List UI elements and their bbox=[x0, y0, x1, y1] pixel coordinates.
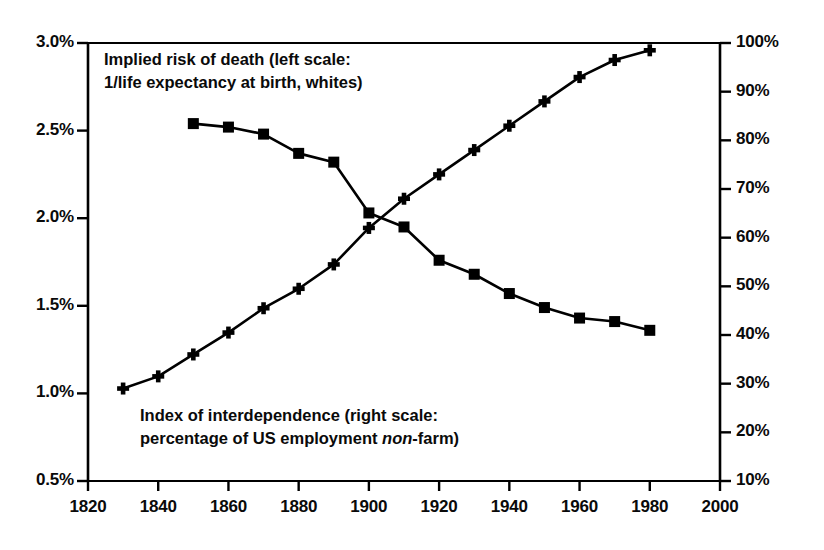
series-line bbox=[193, 124, 649, 331]
right-axis-ticks bbox=[720, 43, 731, 481]
data-point-marker-plus bbox=[644, 44, 656, 56]
right-axis-tick-label: 80% bbox=[736, 129, 816, 149]
x-axis-tick-label: 1880 bbox=[259, 497, 339, 517]
x-axis-ticks bbox=[88, 481, 720, 491]
data-point-marker-square bbox=[188, 118, 199, 129]
data-point-marker-square bbox=[328, 157, 339, 168]
data-point-marker-square bbox=[609, 316, 620, 327]
data-point-marker-plus bbox=[609, 54, 621, 66]
series-label-interdependence: Index of interdependence (right scale: p… bbox=[140, 404, 459, 450]
x-axis-tick-label: 1820 bbox=[48, 497, 128, 517]
right-axis-tick-label: 40% bbox=[736, 324, 816, 344]
data-point-marker-square bbox=[293, 148, 304, 159]
left-axis-tick-label: 3.0% bbox=[4, 32, 74, 52]
data-point-marker-plus bbox=[152, 370, 164, 382]
data-point-marker-plus bbox=[187, 348, 199, 360]
right-axis-tick-label: 70% bbox=[736, 178, 816, 198]
series-label-index-line1: Index of interdependence (right scale: bbox=[140, 404, 459, 427]
left-axis-tick-label: 0.5% bbox=[4, 470, 74, 490]
index-line2-pre: percentage of US employment bbox=[140, 429, 382, 447]
chart-figure: 0.5%1.0%1.5%2.0%2.5%3.0% 10%20%30%40%50%… bbox=[0, 0, 824, 550]
data-point-marker-square bbox=[363, 207, 374, 218]
x-axis-tick-label: 1960 bbox=[540, 497, 620, 517]
right-axis-tick-label: 100% bbox=[736, 32, 816, 52]
data-point-marker-square bbox=[223, 122, 234, 133]
data-point-marker-square bbox=[644, 325, 655, 336]
data-point-marker-square bbox=[504, 288, 515, 299]
right-axis-tick-label: 90% bbox=[736, 81, 816, 101]
data-point-marker-square bbox=[399, 221, 410, 232]
right-axis-tick-label: 10% bbox=[736, 470, 816, 490]
left-axis-ticks bbox=[77, 43, 88, 481]
left-axis-tick-label: 1.5% bbox=[4, 295, 74, 315]
x-axis-tick-label: 1860 bbox=[188, 497, 268, 517]
data-point-marker-square bbox=[539, 302, 550, 313]
data-point-marker-square bbox=[574, 313, 585, 324]
data-point-marker-square bbox=[258, 129, 269, 140]
x-axis-tick-label: 1920 bbox=[399, 497, 479, 517]
right-axis-tick-label: 60% bbox=[736, 227, 816, 247]
right-axis-tick-label: 20% bbox=[736, 421, 816, 441]
x-axis-tick-label: 1840 bbox=[118, 497, 198, 517]
series-label-risk-line2: 1/life expectancy at birth, whites) bbox=[104, 71, 363, 94]
x-axis-tick-label: 2000 bbox=[680, 497, 760, 517]
left-axis-tick-label: 1.0% bbox=[4, 382, 74, 402]
series-label-risk-line1: Implied risk of death (left scale: bbox=[104, 48, 363, 71]
data-point-marker-plus bbox=[117, 383, 129, 395]
x-axis-tick-label: 1900 bbox=[329, 497, 409, 517]
index-line2-italic: non bbox=[382, 429, 412, 447]
data-series-layer bbox=[117, 44, 656, 394]
right-axis-tick-label: 30% bbox=[736, 373, 816, 393]
right-axis-tick-label: 50% bbox=[736, 275, 816, 295]
x-axis-tick-label: 1940 bbox=[469, 497, 549, 517]
x-axis-tick-label: 1980 bbox=[610, 497, 690, 517]
index-line2-post: -farm) bbox=[412, 429, 459, 447]
left-axis-tick-label: 2.0% bbox=[4, 207, 74, 227]
left-axis-tick-label: 2.5% bbox=[4, 120, 74, 140]
series-label-risk-of-death: Implied risk of death (left scale: 1/lif… bbox=[104, 48, 363, 94]
data-point-marker-square bbox=[434, 255, 445, 266]
series-label-index-line2: percentage of US employment non-farm) bbox=[140, 427, 459, 450]
data-point-marker-square bbox=[469, 269, 480, 280]
